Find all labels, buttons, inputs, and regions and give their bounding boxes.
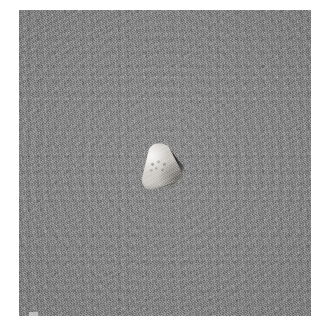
- pale-notch-lower-left-edge-icon: [29, 312, 38, 316]
- photograph-canvas: Close-up photograph of a single small pa…: [0, 0, 329, 327]
- specimen-group: [132, 138, 188, 194]
- subject-label: small pale rounded-triangular object: [0, 0, 1, 1]
- image-description: Close-up photograph of a single small pa…: [0, 0, 1, 1]
- specimen-surface-speckles: [148, 158, 171, 174]
